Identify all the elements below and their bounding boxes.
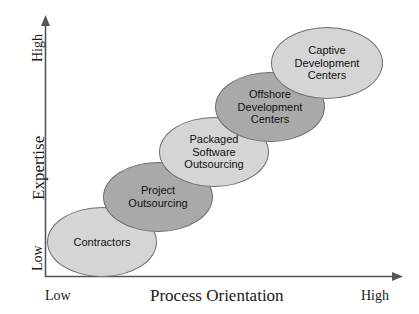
outsourcing-maturity-diagram: Contractors Project Outsourcing Packaged… (0, 0, 419, 314)
bubble-captive-development-centers-line3: Centers (308, 69, 347, 81)
y-axis-tick-high: High (31, 34, 45, 62)
bubble-packaged-software-outsourcing-line1: Packaged (190, 133, 239, 145)
bubble-project-outsourcing-label: Project Outsourcing (122, 184, 193, 210)
bubble-packaged-software-outsourcing-line3: Outsourcing (184, 158, 243, 170)
bubble-contractors-line1: Contractors (74, 236, 131, 248)
bubble-captive-development-centers[interactable]: Captive Development Centers (271, 27, 383, 99)
bubble-offshore-development-centers-line2: Development (238, 101, 303, 113)
bubble-captive-development-centers-line2: Development (295, 57, 360, 69)
bubble-captive-development-centers-line1: Captive (308, 44, 345, 56)
bubble-captive-development-centers-label: Captive Development Centers (289, 44, 366, 83)
x-axis-arrowhead (392, 272, 403, 281)
x-axis-title: Process Orientation (150, 287, 284, 304)
bubble-offshore-development-centers-line1: Offshore (249, 88, 291, 100)
y-axis-arrowhead (41, 15, 50, 26)
bubble-project-outsourcing-line1: Project (141, 184, 175, 196)
bubble-packaged-software-outsourcing-line2: Software (192, 146, 235, 158)
bubble-project-outsourcing-line2: Outsourcing (128, 197, 187, 209)
bubble-contractors-label: Contractors (68, 236, 137, 249)
x-axis-tick-low: Low (45, 289, 71, 303)
bubble-packaged-software-outsourcing-label: Packaged Software Outsourcing (178, 133, 249, 172)
y-axis-title: Expertise (30, 136, 47, 200)
y-axis-tick-low: Low (31, 245, 45, 271)
bubble-offshore-development-centers-line3: Centers (251, 113, 290, 125)
x-axis-tick-high: High (361, 289, 389, 303)
